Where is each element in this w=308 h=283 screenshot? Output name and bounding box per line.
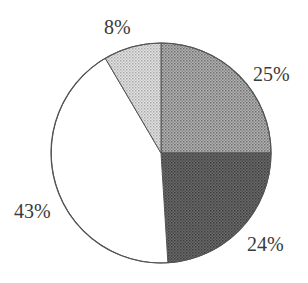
label-43-percent: 43% [14,200,51,222]
label-8-percent: 8% [104,16,131,38]
label-25-percent: 25% [253,63,290,85]
label-24-percent: 24% [247,233,284,255]
pie-chart: 8% 25% 24% 43% [0,0,308,283]
pie-slice-25 [161,43,271,153]
